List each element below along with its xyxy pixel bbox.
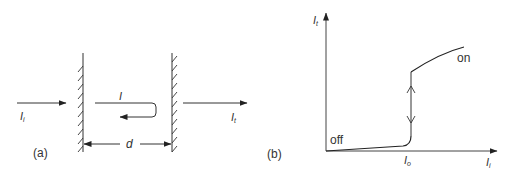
transmitted-intensity-label: It <box>231 111 237 124</box>
incident-intensity-label: Ii <box>20 110 25 123</box>
panel-a-label: (a) <box>33 146 48 160</box>
y-axis-label: It <box>313 14 319 27</box>
panel-b: It Ii Io off on (b) <box>267 13 497 169</box>
threshold-label: Io <box>404 154 411 167</box>
left-mirror <box>78 53 83 152</box>
off-state-label: off <box>330 133 344 147</box>
x-axis-label: Ii <box>486 156 491 169</box>
internal-field-arrow <box>95 103 156 117</box>
bistable-fabry-perot-figure: Ii I d It (a) It Ii Io <box>0 0 514 178</box>
panel-a: Ii I d It (a) <box>17 53 247 160</box>
right-mirror <box>172 53 177 152</box>
spacing-label: d <box>126 137 133 151</box>
internal-intensity-label: I <box>119 90 122 102</box>
on-state-label: on <box>457 51 470 65</box>
panel-b-label: (b) <box>267 147 282 161</box>
